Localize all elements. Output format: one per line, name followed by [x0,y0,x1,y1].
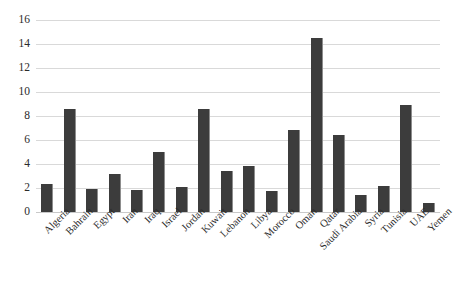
bar [198,109,210,212]
bar [400,105,412,212]
y-tick-label: 4 [6,158,30,170]
y-tick-label: 2 [6,182,30,194]
bar [288,130,300,212]
bar [221,171,233,212]
y-tick-label: 0 [6,206,30,218]
x-axis-labels: AlgeriaBahrainEgyptIranIraqIsraelJordanK… [36,214,440,284]
y-tick-label: 10 [6,86,30,98]
bar-chart: 1614121086420 AlgeriaBahrainEgyptIranIra… [0,0,454,284]
bar [243,166,255,212]
y-tick-label: 6 [6,134,30,146]
y-tick-label: 16 [6,14,30,26]
plot-area [36,20,440,212]
bar [64,109,76,212]
y-tick-label: 14 [6,38,30,50]
bar [333,135,345,212]
y-tick-label: 8 [6,110,30,122]
bar [153,152,165,212]
bar [41,184,53,212]
bars-layer [36,20,440,212]
bar [311,38,323,212]
y-tick-label: 12 [6,62,30,74]
